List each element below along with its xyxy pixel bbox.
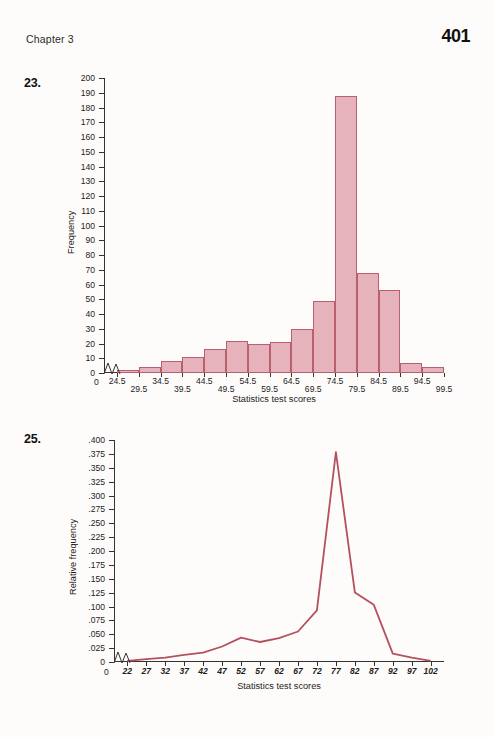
- x-tick-label: 77: [331, 667, 341, 676]
- y-tick-label: 40: [58, 310, 95, 319]
- figure-line-25: 0.025.050.075.100.125.150.175.200.225.25…: [58, 432, 478, 702]
- histogram-bar: [422, 367, 444, 373]
- y-tick-label: .075: [58, 616, 105, 625]
- line-series: [114, 440, 444, 662]
- y-tick-label: 0: [58, 369, 95, 378]
- y-tick-label: 140: [58, 162, 95, 171]
- y-tick-label: .200: [58, 547, 105, 556]
- y-axis-title: Relative frequency: [68, 519, 78, 595]
- y-tick-label: .300: [58, 491, 105, 500]
- histogram-bar: [313, 301, 335, 373]
- y-tick-mark: [99, 226, 104, 227]
- x-tick-label: 22: [122, 667, 132, 676]
- y-tick-label: 90: [58, 236, 95, 245]
- y-tick-mark: [99, 255, 104, 256]
- figure-histogram-23: 0102030405060708090100110120130140150160…: [58, 70, 478, 400]
- y-tick-label: 110: [58, 206, 95, 215]
- y-tick-mark: [99, 137, 104, 138]
- y-tick-label: 130: [58, 177, 95, 186]
- y-tick-mark: [99, 167, 104, 168]
- y-tick-label: 60: [58, 280, 95, 289]
- histogram-bar: [182, 357, 204, 373]
- x-tick-label: 52: [236, 667, 246, 676]
- x-tick-label: 54.5: [239, 377, 256, 386]
- y-tick-mark: [99, 285, 104, 286]
- x-tick-label: 27: [141, 667, 151, 676]
- y-tick-label: .225: [58, 533, 105, 542]
- y-tick-label: .400: [58, 436, 105, 445]
- y-tick-label: 10: [58, 354, 95, 363]
- x-tick-label: 37: [179, 667, 189, 676]
- x-tick-label: 69.5: [305, 385, 322, 394]
- y-tick-mark: [99, 108, 104, 109]
- y-tick-label: .150: [58, 574, 105, 583]
- axis-origin-label: 0: [94, 377, 99, 387]
- x-tick-label: 74.5: [327, 377, 344, 386]
- y-tick-label: 160: [58, 133, 95, 142]
- histogram-bar: [400, 363, 422, 373]
- x-tick-label: 82: [350, 667, 360, 676]
- y-tick-mark: [99, 122, 104, 123]
- y-tick-label: .025: [58, 644, 105, 653]
- y-tick-label: 170: [58, 118, 95, 127]
- y-tick-mark: [99, 93, 104, 94]
- y-tick-mark: [99, 314, 104, 315]
- y-tick-label: 0: [58, 658, 105, 667]
- x-tick-mark: [400, 373, 401, 377]
- x-tick-label: 84.5: [370, 377, 387, 386]
- y-tick-label: 120: [58, 192, 95, 201]
- histogram-bar: [204, 349, 226, 373]
- histogram-bar: [335, 96, 357, 373]
- x-tick-label: 87: [369, 667, 379, 676]
- y-tick-mark: [99, 329, 104, 330]
- y-tick-label: .325: [58, 477, 105, 486]
- line-plot: [114, 440, 444, 662]
- histogram-bar: [379, 290, 401, 373]
- x-tick-mark: [270, 373, 271, 377]
- x-axis-title: Statistics test scores: [104, 394, 444, 404]
- x-tick-label: 47: [217, 667, 227, 676]
- y-tick-label: 190: [58, 88, 95, 97]
- x-tick-mark: [313, 373, 314, 377]
- y-tick-label: 200: [58, 74, 95, 83]
- x-tick-label: 34.5: [152, 377, 169, 386]
- x-tick-label: 62: [274, 667, 284, 676]
- axis-origin-label: 0: [104, 667, 109, 677]
- y-tick-label: .250: [58, 519, 105, 528]
- x-tick-label: 99.5: [436, 385, 453, 394]
- y-tick-label: 100: [58, 221, 95, 230]
- y-tick-mark: [99, 211, 104, 212]
- x-tick-label: 42: [198, 667, 208, 676]
- histogram-bar: [357, 273, 379, 373]
- axis-break-icon: [103, 362, 121, 376]
- y-tick-mark: [99, 344, 104, 345]
- problem-number-23: 23.: [24, 76, 41, 90]
- x-tick-label: 64.5: [283, 377, 300, 386]
- y-tick-label: .350: [58, 463, 105, 472]
- x-tick-mark: [444, 373, 445, 377]
- y-tick-label: 180: [58, 103, 95, 112]
- x-axis-title: Statistics test scores: [114, 681, 444, 691]
- histogram-bar: [291, 329, 313, 373]
- page-number: 401: [441, 26, 470, 47]
- x-tick-label: 24.5: [109, 377, 126, 386]
- x-tick-label: 44.5: [196, 377, 213, 386]
- y-axis: [104, 78, 105, 373]
- histogram-bar: [226, 341, 248, 373]
- x-tick-label: 67: [293, 667, 303, 676]
- x-tick-mark: [182, 373, 183, 377]
- y-tick-label: 80: [58, 251, 95, 260]
- y-tick-mark: [99, 181, 104, 182]
- x-tick-label: 97: [407, 667, 417, 676]
- y-tick-mark: [99, 299, 104, 300]
- histogram-bar: [161, 361, 183, 373]
- x-tick-label: 32: [160, 667, 170, 676]
- y-tick-mark: [99, 152, 104, 153]
- y-tick-mark: [99, 196, 104, 197]
- y-tick-label: .125: [58, 588, 105, 597]
- histogram-bar: [270, 342, 292, 373]
- y-tick-label: .375: [58, 450, 105, 459]
- histogram-plot: [104, 78, 444, 373]
- y-tick-label: 20: [58, 339, 95, 348]
- y-axis-title: Frequency: [66, 210, 76, 253]
